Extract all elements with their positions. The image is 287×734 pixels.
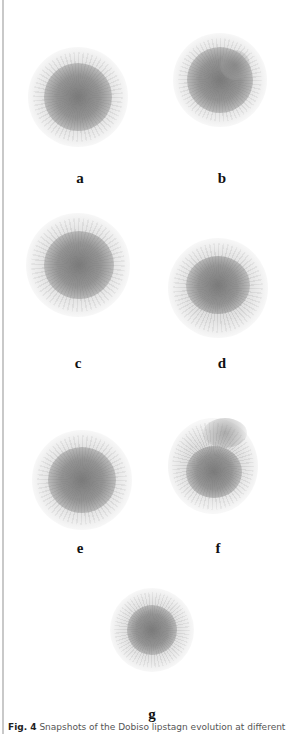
panel-label-a: a xyxy=(76,170,84,187)
page-left-rule xyxy=(2,0,4,734)
panel-label-b: b xyxy=(218,170,226,187)
network-core xyxy=(44,63,112,131)
panel-label-d: d xyxy=(218,355,226,372)
panel-label-g: g xyxy=(148,706,156,723)
network-core xyxy=(186,446,242,498)
network-core xyxy=(48,447,116,513)
panel-label-c: c xyxy=(75,355,82,372)
network-core xyxy=(186,256,250,314)
figure-caption-text: Snapshots of the Dobiso lipstagn evoluti… xyxy=(39,722,287,732)
figure-caption: Fig. 4 Snapshots of the Dobiso lipstagn … xyxy=(8,722,287,732)
network-subcluster xyxy=(203,418,247,448)
figure-number: Fig. 4 xyxy=(8,722,37,732)
panel-label-e: e xyxy=(77,540,84,557)
network-core xyxy=(127,605,177,655)
network-core xyxy=(44,231,114,299)
panel-label-f: f xyxy=(216,540,221,557)
network-subcluster xyxy=(220,50,250,80)
